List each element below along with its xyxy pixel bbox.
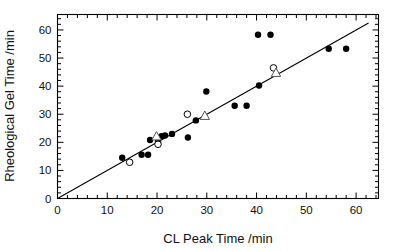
y-tick-label: 60 xyxy=(39,24,52,36)
data-point-filled-circle xyxy=(343,46,349,52)
data-point-filled-circle xyxy=(326,46,332,52)
data-point-filled-circle xyxy=(243,103,249,109)
data-point-open-circle xyxy=(126,159,133,166)
y-axis-label: Rheological Gel Time /min xyxy=(2,30,17,182)
data-point-filled-circle xyxy=(231,103,237,109)
data-point-filled-circle xyxy=(138,151,144,157)
x-tick-label: 50 xyxy=(300,204,313,216)
plot-canvas: 0102030405060 0102030405060 CL Peak Time… xyxy=(0,0,399,251)
y-tick-label: 20 xyxy=(39,136,52,148)
x-axis-label: CL Peak Time /min xyxy=(163,231,272,246)
scatter-plot-figure: 0102030405060 0102030405060 CL Peak Time… xyxy=(0,0,399,251)
data-point-filled-circle xyxy=(255,32,261,38)
x-tick-label: 60 xyxy=(350,204,363,216)
data-point-filled-circle xyxy=(145,151,151,157)
data-point-filled-circle xyxy=(162,132,168,138)
y-tick-label: 30 xyxy=(39,108,52,120)
y-tick-label: 10 xyxy=(39,164,52,176)
y-tick-label: 0 xyxy=(45,193,51,205)
y-tick-label: 40 xyxy=(39,80,52,92)
data-point-open-circle xyxy=(155,141,162,148)
x-tick-label: 30 xyxy=(200,204,213,216)
data-point-filled-circle xyxy=(169,131,175,137)
x-tick-label: 10 xyxy=(101,204,114,216)
data-point-filled-circle xyxy=(256,82,262,88)
x-tick-label: 40 xyxy=(250,204,263,216)
data-point-filled-circle xyxy=(193,117,199,123)
data-point-filled-circle xyxy=(185,134,191,140)
data-point-filled-circle xyxy=(267,32,273,38)
data-point-filled-circle xyxy=(203,88,209,94)
data-point-open-circle xyxy=(184,111,191,118)
data-point-filled-circle xyxy=(119,155,125,161)
y-tick-label: 50 xyxy=(39,52,52,64)
x-tick-label: 20 xyxy=(151,204,164,216)
x-tick-label: 0 xyxy=(54,204,60,216)
